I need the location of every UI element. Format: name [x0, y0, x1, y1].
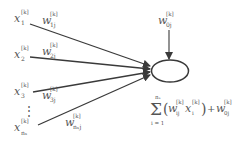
svg-text:[k]: [k] [21, 118, 29, 124]
svg-text:nₓ: nₓ [21, 129, 28, 136]
svg-text:1j: 1j [50, 21, 56, 29]
input-label-2: x 2 [k] [14, 45, 29, 62]
svg-text:i: i [192, 110, 194, 116]
svg-text:+: + [207, 103, 215, 114]
weight-label-1: w 1j [k] [42, 11, 58, 29]
svg-text:[k]: [k] [166, 11, 174, 17]
input-label-n: x nₓ [k] [14, 118, 29, 136]
svg-text:[k]: [k] [176, 99, 184, 105]
connection-line-2 [30, 57, 150, 69]
weight-label-n: w nₓj [k] [65, 113, 81, 131]
svg-text:3j: 3j [50, 96, 56, 104]
svg-text:i = 1: i = 1 [151, 120, 164, 126]
input-ellipsis: ⋮ [23, 104, 35, 118]
bias-label: w 0j [k] [158, 11, 174, 29]
svg-text:2: 2 [21, 55, 25, 62]
weight-label-2: w 2j [k] [42, 42, 58, 60]
svg-text:[k]: [k] [50, 11, 58, 17]
svg-text:0j: 0j [166, 21, 172, 29]
weight-label-3: w 3j [k] [42, 86, 58, 104]
svg-text:): ) [201, 101, 206, 117]
svg-text:[k]: [k] [192, 99, 200, 105]
svg-text:[k]: [k] [50, 42, 58, 48]
neuron-node [152, 60, 189, 82]
svg-text:[k]: [k] [224, 99, 232, 105]
svg-text:[k]: [k] [21, 45, 29, 51]
svg-text:[k]: [k] [73, 113, 81, 119]
svg-text:ij: ij [176, 110, 180, 117]
svg-text:1: 1 [21, 19, 25, 26]
svg-text:0j: 0j [224, 110, 229, 117]
svg-text:[k]: [k] [21, 9, 29, 15]
svg-text:x: x [14, 121, 21, 134]
weighted-sum-formula: nₓ Σ i = 1 ( w ij [k] x i [k] ) + w 0j [… [150, 94, 232, 126]
svg-text:nₓj: nₓj [73, 123, 81, 131]
svg-text:x: x [14, 85, 21, 98]
input-label-3: x 3 [k] [14, 82, 29, 99]
svg-text:x: x [185, 102, 192, 115]
svg-text:[k]: [k] [21, 82, 29, 88]
svg-text:x: x [14, 12, 21, 25]
svg-text:2j: 2j [50, 52, 56, 60]
svg-text:3: 3 [21, 92, 25, 99]
neuron-diagram: x 1 [k] x 2 [k] x 3 [k] ⋮ x nₓ [k] w 1j … [0, 0, 246, 142]
input-label-1: x 1 [k] [14, 9, 29, 26]
svg-text:[k]: [k] [50, 86, 58, 92]
svg-text:x: x [14, 48, 21, 61]
svg-text:Σ: Σ [150, 99, 162, 119]
